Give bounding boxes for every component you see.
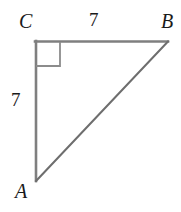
- side-ab-hypotenuse-line: [36, 42, 168, 182]
- geometry-figure: C B A 7 7: [0, 0, 181, 212]
- right-angle-square-icon: [36, 42, 60, 66]
- vertex-label-a: A: [15, 181, 27, 201]
- side-length-label-ca: 7: [11, 90, 21, 109]
- side-length-label-cb: 7: [89, 10, 99, 29]
- vertex-label-b: B: [161, 11, 173, 31]
- vertex-label-c: C: [19, 11, 32, 31]
